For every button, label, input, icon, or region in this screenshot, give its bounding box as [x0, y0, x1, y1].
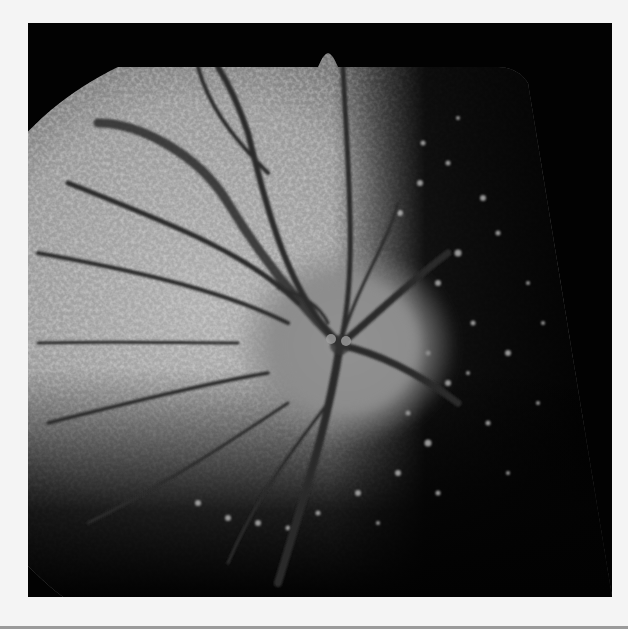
fundus-image-frame — [28, 23, 612, 597]
disc-reflex-left — [326, 334, 336, 344]
fundus-photograph — [28, 23, 612, 597]
field-of-view — [28, 23, 612, 597]
disc-reflex-right — [341, 336, 351, 346]
